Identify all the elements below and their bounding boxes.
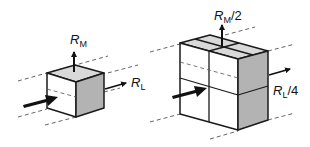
right-load-label: RL/4: [273, 83, 298, 100]
right-load-arrow: [269, 69, 290, 75]
left-load-arrow: [105, 83, 126, 89]
left-load-label: RL: [131, 75, 145, 92]
left-moment-label: RM: [70, 32, 87, 49]
left-cube-group: RM RL: [18, 32, 145, 125]
diagram-canvas: RM RL RM: [0, 0, 310, 147]
right-moment-label: RM/2: [214, 8, 242, 25]
right-block-group: RM/2 RL/4: [150, 8, 298, 139]
